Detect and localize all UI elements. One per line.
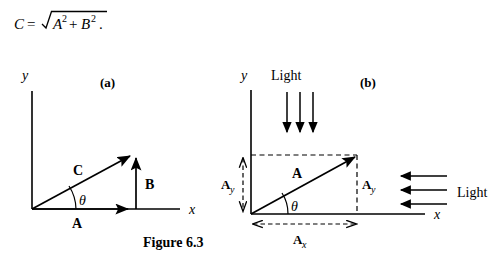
equation-equals: = xyxy=(27,16,35,32)
panel-b-ay-left-sub: y xyxy=(229,184,235,195)
panel-a-angle-label: θ xyxy=(79,193,86,208)
equation-period: . xyxy=(99,16,103,32)
panel-b-ay-left-label: A y xyxy=(221,177,235,195)
panel-a-x-axis-label: x xyxy=(188,202,196,217)
light-top-label: Light xyxy=(271,68,301,83)
panel-b-ax-sub: x xyxy=(301,239,307,250)
figure-caption: Figure 6.3 xyxy=(143,235,203,250)
panel-b-ax-label: A x xyxy=(293,232,307,250)
panel-a-vector-c-label: C xyxy=(73,163,83,178)
panel-b-ay-right-label: A y xyxy=(362,177,376,195)
figure-canvas: C = A 2 + B 2 . (a) y x A B xyxy=(0,0,496,263)
light-right-label: Light xyxy=(457,185,487,200)
panel-a-label: (a) xyxy=(100,75,115,90)
radicand-a-exponent: 2 xyxy=(62,13,67,24)
radicand-b: B xyxy=(81,16,90,32)
panel-a: (a) y x A B C θ xyxy=(20,68,196,231)
panel-b-x-axis-label: x xyxy=(433,207,441,222)
panel-a-vector-a-label: A xyxy=(72,216,83,231)
panel-b-ay-right-sub: y xyxy=(370,184,376,195)
equation-c-equals-sqrt: C = A 2 + B 2 . xyxy=(14,12,107,33)
panel-b-y-axis-label: y xyxy=(239,68,248,83)
panel-b-vector-a xyxy=(251,157,355,214)
panel-b: (b) y x A θ A y A xyxy=(221,68,487,250)
equation-lhs: C xyxy=(14,16,25,32)
radicand-b-exponent: 2 xyxy=(91,13,96,24)
panel-b-label: (b) xyxy=(360,75,376,90)
panel-a-vector-b-label: B xyxy=(145,177,154,192)
light-right-rays xyxy=(401,176,447,204)
light-top-rays xyxy=(287,92,313,132)
panel-a-angle-arc xyxy=(69,186,76,209)
panel-b-vector-a-label: A xyxy=(292,166,303,181)
figure-6-3: C = A 2 + B 2 . (a) y x A B xyxy=(0,0,496,263)
panel-a-y-axis-label: y xyxy=(20,68,29,83)
panel-b-angle-label: θ xyxy=(291,199,298,214)
equation-plus: + xyxy=(69,16,77,32)
